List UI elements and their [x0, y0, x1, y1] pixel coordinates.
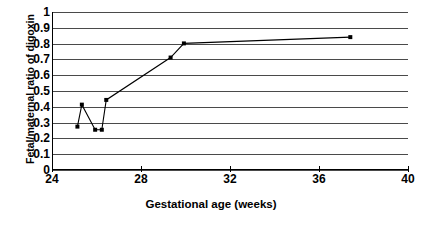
x-axis-tick-labels: 2428323640 [0, 172, 422, 194]
data-point-marker [348, 35, 352, 39]
x-axis-title: Gestational age (weeks) [0, 198, 422, 210]
x-tick-label: 28 [134, 172, 147, 186]
data-point-marker [104, 98, 108, 102]
y-tick-label: 0.9 [16, 21, 50, 35]
data-point-marker [75, 125, 79, 129]
plot-area [52, 12, 408, 170]
data-series-line [53, 12, 408, 169]
y-tick-label: 0.6 [16, 68, 50, 82]
x-tick-mark [408, 166, 409, 172]
data-point-marker [80, 103, 84, 107]
chart-figure: Fetal/maternal ratio of digoxin 00.10.20… [0, 0, 422, 227]
x-tick-mark [319, 166, 320, 172]
y-tick-label: 0.3 [16, 116, 50, 130]
y-tick-label: 0.4 [16, 100, 50, 114]
x-tick-mark [230, 166, 231, 172]
y-tick-label: 0.1 [16, 147, 50, 161]
x-tick-label: 24 [45, 172, 58, 186]
x-tick-mark [52, 166, 53, 172]
y-tick-label: 0.8 [16, 37, 50, 51]
y-tick-label: 0.2 [16, 131, 50, 145]
x-tick-label: 40 [401, 172, 414, 186]
y-tick-label: 0.5 [16, 84, 50, 98]
data-point-marker [182, 41, 186, 45]
data-point-marker [93, 128, 97, 132]
x-tick-mark [141, 166, 142, 172]
x-tick-label: 36 [312, 172, 325, 186]
y-tick-label: 1 [16, 5, 50, 19]
series-line [77, 37, 350, 130]
data-point-marker [100, 128, 104, 132]
y-tick-label: 0.7 [16, 52, 50, 66]
data-point-marker [169, 56, 173, 60]
x-tick-label: 32 [223, 172, 236, 186]
